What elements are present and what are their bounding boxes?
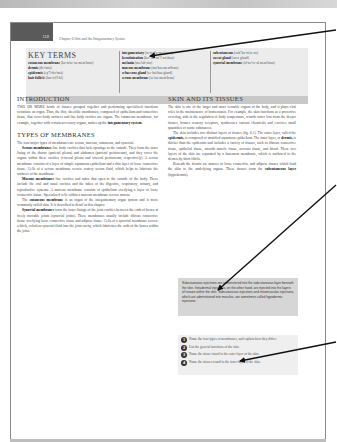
review-question: 1 Name the four types of membranes, and … [181, 337, 295, 343]
review-question: 3 Name the tissue found in the outer lay… [181, 352, 295, 358]
review-questions-box: 1 Name the four types of membranes, and … [178, 335, 298, 375]
question-number-badge: 2 [181, 345, 187, 351]
types-heading: TYPES OF MEMBRANES [17, 131, 158, 139]
key-terms-column-1: KEY TERMS cutaneous membrane (ku-ta'ne-u… [28, 51, 114, 81]
review-question: 2 List the general functions of the skin… [181, 345, 295, 351]
skin-paragraph-3: Beneath the dermis are masses of loose c… [168, 162, 296, 178]
left-column: INTRODUCTION TWO OR MORE kinds of tissue… [17, 95, 158, 234]
key-term: hair follicle (hār fol'ĭ-kl) [28, 76, 114, 81]
question-number-badge: 4 [181, 360, 187, 366]
serous-paragraph: Serous membranes line body cavities that… [17, 146, 158, 177]
question-number-badge: 3 [181, 352, 187, 358]
skin-tissues-heading: SKIN AND ITS TISSUES [168, 95, 296, 103]
running-head: Chapter 6 Skin and the Integumentary Sys… [59, 37, 125, 41]
introduction-heading: INTRODUCTION [17, 95, 158, 103]
key-terms-title: KEY TERMS [28, 51, 114, 60]
page-number: 118 [43, 34, 49, 39]
skin-paragraph-2: The skin includes two distinct layers of… [168, 131, 296, 162]
clinical-note-box: Subcutaneous injections are administered… [178, 278, 298, 316]
right-column: SKIN AND ITS TISSUES The skin is one of … [168, 95, 296, 178]
skin-paragraph-1: The skin is one of the larger and more v… [168, 105, 296, 131]
key-term: serous membrane (se'rus mem'brān) [122, 76, 208, 81]
mucous-paragraph: Mucous membranes line cavities and tubes… [17, 177, 158, 198]
scan-top-edge [0, 0, 337, 8]
key-terms-box: KEY TERMS cutaneous membrane (ku-ta'ne-u… [26, 48, 308, 96]
key-terms-column-3: subcutaneous (sub"ku-ta'ne-us) sweat gla… [210, 51, 303, 93]
page-number-block: 118 [11, 23, 53, 41]
key-terms-column-2: integumentary (in-teg"u-men'tar-e) kerat… [119, 51, 208, 93]
question-number-badge: 1 [181, 337, 187, 343]
introduction-paragraph: TWO OR MORE kinds of tissues grouped tog… [17, 105, 158, 126]
cutaneous-paragraph: The cutaneous membrane is an organ of th… [17, 198, 158, 208]
synovial-paragraph: Synovial membranes form the inner lining… [17, 208, 158, 234]
key-term: synovial membrane (sĭ-no've-al mem'brān) [213, 61, 303, 66]
review-question: 4 Name the tissues found in the inner la… [181, 360, 295, 366]
